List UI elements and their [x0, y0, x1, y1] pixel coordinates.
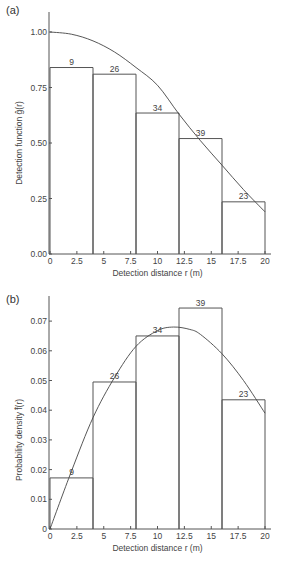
x-tick-label: 20 [260, 256, 270, 266]
histogram-bar [136, 113, 179, 254]
histogram-bar [179, 308, 222, 529]
y-axis-title: Probability density f̂(r) [14, 399, 24, 481]
x-tick-label: 17.5 [230, 531, 247, 541]
chart-panel-b: (b)00.010.020.030.040.050.060.0702.557.5… [6, 293, 271, 553]
y-tick-label: 0 [42, 524, 47, 534]
panel-label: (b) [6, 293, 19, 305]
bar-count-label: 23 [239, 389, 249, 399]
histogram-bar [179, 139, 222, 254]
y-tick-label: 0.75 [30, 83, 47, 93]
bar-count-label: 26 [110, 64, 120, 74]
figure: (a)0.000.250.500.751.0002.557.51012.5151… [0, 0, 291, 567]
bar-count-label: 39 [196, 298, 206, 308]
y-tick-label: 0.05 [30, 376, 47, 386]
x-tick-label: 15 [207, 256, 217, 266]
y-tick-label: 0.50 [30, 138, 47, 148]
histogram-bar [222, 202, 265, 254]
x-tick-label: 15 [207, 531, 217, 541]
y-tick-label: 0.04 [30, 405, 47, 415]
x-tick-label: 7.5 [125, 256, 137, 266]
y-tick-label: 1.00 [30, 27, 47, 37]
fitted-curve [50, 327, 265, 529]
x-tick-label: 20 [260, 531, 270, 541]
y-tick-label: 0.06 [30, 346, 47, 356]
histogram-bar [50, 68, 93, 254]
y-axis-title: Detection function ĝ(r) [14, 101, 24, 185]
x-tick-label: 17.5 [230, 256, 247, 266]
y-tick-label: 0.00 [30, 249, 47, 259]
x-tick-label: 5 [101, 256, 106, 266]
x-tick-label: 2.5 [71, 256, 83, 266]
y-tick-label: 0.01 [30, 494, 47, 504]
x-tick-label: 10 [153, 256, 163, 266]
chart-panel-a: (a)0.000.250.500.751.0002.557.51012.5151… [6, 4, 271, 278]
x-tick-label: 2.5 [71, 531, 83, 541]
y-tick-label: 0.25 [30, 194, 47, 204]
x-tick-label: 10 [153, 531, 163, 541]
histogram-bar [136, 336, 179, 529]
bar-count-label: 9 [69, 57, 74, 67]
x-axis-title: Detection distance r (m) [112, 543, 202, 553]
y-tick-label: 0.07 [30, 316, 47, 326]
x-tick-label: 0 [48, 256, 53, 266]
bar-count-label: 34 [153, 103, 163, 113]
histogram-bar [222, 400, 265, 529]
y-tick-label: 0.02 [30, 465, 47, 475]
x-tick-label: 7.5 [125, 531, 137, 541]
x-tick-label: 0 [48, 531, 53, 541]
x-axis-title: Detection distance r (m) [112, 268, 202, 278]
histogram-bar [50, 478, 93, 529]
fitted-curve [50, 32, 265, 212]
x-tick-label: 12.5 [176, 531, 193, 541]
panel-label: (a) [6, 4, 19, 16]
x-tick-label: 12.5 [176, 256, 193, 266]
y-tick-label: 0.03 [30, 435, 47, 445]
x-tick-label: 5 [101, 531, 106, 541]
histogram-bar [93, 74, 136, 254]
